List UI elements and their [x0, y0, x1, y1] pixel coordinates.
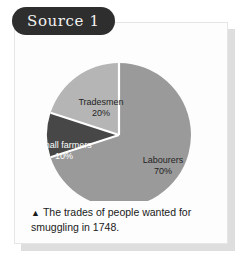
pie-chart: Tradesmen 20% Small farmers 10% Labourer… — [15, 23, 229, 201]
chart-caption: ▲The trades of people wanted for smuggli… — [31, 205, 217, 235]
pie-chart-svg — [15, 23, 229, 201]
caption-text: The trades of people wanted for smugglin… — [31, 206, 191, 233]
source-card-stage: Tradesmen 20% Small farmers 10% Labourer… — [0, 0, 248, 275]
caption-triangle-icon: ▲ — [31, 208, 40, 218]
source-badge: Source 1 — [12, 7, 115, 35]
source-card: Tradesmen 20% Small farmers 10% Labourer… — [14, 22, 228, 244]
source-badge-label: Source 1 — [27, 14, 100, 29]
